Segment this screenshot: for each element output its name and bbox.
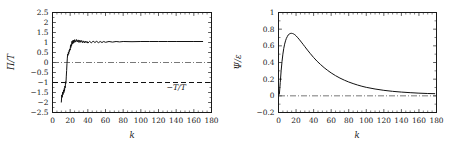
x-tick-label: 40: [83, 116, 93, 125]
y-tick-label: 0.4: [263, 58, 275, 67]
y-tick-label: 0.6: [263, 41, 275, 50]
y-tick-label: −0.2: [257, 108, 275, 117]
left-x-tick-labels: 020406080100120140160180: [50, 116, 219, 125]
right-axis-ticks: [279, 13, 437, 113]
chart-panel-left: 020406080100120140160180 2.521.510.50−0.…: [0, 0, 228, 153]
x-tick-label: 160: [412, 116, 426, 125]
x-tick-label: 120: [151, 116, 165, 125]
y-tick-label: −2.5: [31, 108, 49, 117]
x-tick-label: 60: [326, 116, 336, 125]
left-y-axis-label: Π/T: [6, 53, 16, 71]
y-tick-label: 0.2: [263, 75, 275, 84]
y-tick-label: 0: [270, 91, 275, 100]
x-tick-label: 20: [65, 116, 75, 125]
x-tick-label: 0: [50, 116, 55, 125]
y-tick-label: 2: [44, 18, 49, 27]
x-tick-label: 0: [276, 116, 281, 125]
y-tick-label: 0: [44, 58, 49, 67]
x-tick-label: 100: [134, 116, 148, 125]
right-x-tick-labels: 020406080100120140160180: [276, 116, 444, 125]
chart-panel-right: 020406080100120140160180 10.80.60.40.20−…: [228, 0, 456, 153]
x-tick-label: 80: [344, 116, 354, 125]
x-tick-label: 140: [394, 116, 408, 125]
right-y-axis-label: Ψ/ε: [233, 54, 243, 69]
y-tick-label: −0.5: [31, 68, 49, 77]
left-chart-svg: 020406080100120140160180 2.521.510.50−0.…: [0, 0, 228, 153]
left-y-tick-labels: 2.521.510.50−0.5−1−1.5−2−2.5: [31, 8, 49, 117]
x-tick-label: 80: [118, 116, 128, 125]
chart-annotation: −T/T: [166, 83, 186, 92]
left-data-curves: [61, 40, 202, 103]
right-data-curves: [279, 33, 434, 94]
x-tick-label: 180: [429, 116, 443, 125]
y-tick-label: 0.5: [37, 48, 49, 57]
x-tick-label: 60: [101, 116, 111, 125]
left-reference-lines: [53, 63, 211, 83]
y-tick-label: −1.5: [31, 88, 49, 97]
right-chart-svg: 020406080100120140160180 10.80.60.40.20−…: [228, 0, 456, 153]
y-tick-label: 1: [270, 8, 275, 17]
y-tick-label: 1.5: [37, 28, 49, 37]
x-tick-label: 120: [377, 116, 391, 125]
right-x-axis-label: k: [354, 130, 359, 140]
data-series-psi-over-epsilon: [279, 33, 434, 94]
x-tick-label: 180: [204, 116, 218, 125]
x-tick-label: 40: [309, 116, 319, 125]
x-tick-label: 20: [291, 116, 301, 125]
x-tick-label: 160: [187, 116, 201, 125]
y-tick-label: 2.5: [37, 8, 49, 17]
x-tick-label: 140: [169, 116, 183, 125]
left-x-axis-label: k: [129, 130, 134, 140]
y-tick-label: 0.8: [263, 25, 275, 34]
y-tick-label: −2: [38, 98, 49, 107]
y-tick-label: −1: [38, 78, 49, 87]
right-plot-frame: [279, 13, 437, 113]
x-tick-label: 100: [359, 116, 373, 125]
two-panel-figure: 020406080100120140160180 2.521.510.50−0.…: [0, 0, 457, 153]
right-y-tick-labels: 10.80.60.40.20−0.2: [257, 8, 275, 117]
y-tick-label: 1: [44, 38, 49, 47]
left-annotations: −T/T: [166, 83, 186, 92]
data-series-pi-over-t: [61, 40, 202, 103]
